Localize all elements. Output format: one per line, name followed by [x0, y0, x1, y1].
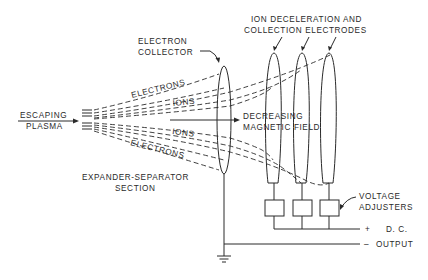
dc-label: D. C.: [386, 225, 408, 234]
section-label-line1: EXPANDER-SEPARATOR: [82, 173, 189, 182]
electrons-top-label: ELECTRONS: [130, 78, 186, 100]
electrode-leader-lines: [273, 37, 336, 51]
voltage-adjuster-1: [265, 200, 284, 216]
electrode-3: [321, 53, 337, 183]
ground-icon: [217, 256, 231, 262]
electrodes-label-line2: COLLECTION ELECTRODES: [244, 26, 367, 35]
ions-bottom-label: IONS: [172, 127, 195, 139]
electron-trajectories-top: [94, 74, 224, 113]
section-label-line2: SECTION: [115, 184, 156, 193]
voltage-adjuster-3: [320, 200, 339, 216]
output-label: OUTPUT: [376, 240, 413, 249]
negative-bus: [224, 174, 360, 256]
minus-terminal-label: –: [364, 240, 369, 249]
adjusters-label-line1: VOLTAGE: [359, 192, 401, 201]
escaping-label-line1: ESCAPING: [20, 111, 67, 120]
ions-top-label: IONS: [172, 97, 195, 108]
plus-terminal-label: +: [365, 225, 370, 234]
collector-leader-line: [200, 51, 218, 60]
electrodes-label-line1: ION DECELERATION AND: [251, 15, 362, 24]
positive-bus: [274, 216, 360, 229]
electrons-bottom-label: ELECTRONS: [130, 138, 186, 160]
direct-converter-diagram: ESCAPING PLASMA ELECTRONS IONS ION: [0, 0, 428, 280]
field-label-line2: MAGNETIC FIELD: [243, 123, 320, 132]
field-label-line1: DECREASING: [243, 112, 303, 121]
collector-label-line1: ELECTRON: [138, 37, 187, 46]
collector-label-line2: COLLECTOR: [138, 48, 193, 57]
escaping-label-line2: PLASMA: [26, 122, 63, 131]
voltage-adjuster-2: [293, 200, 312, 216]
magnetic-field-arrow: [170, 118, 240, 123]
plasma-source-icon: [82, 110, 92, 129]
adjusters-label-line2: ADJUSTERS: [359, 203, 413, 212]
electrode-wires: [274, 183, 329, 200]
